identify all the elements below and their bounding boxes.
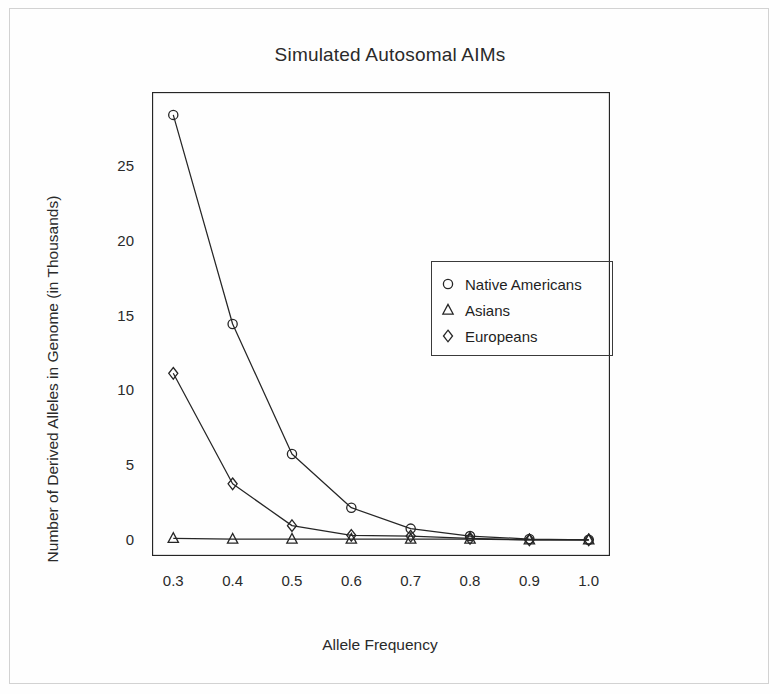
marker-triangle [168, 533, 178, 543]
y-tick-label: 5 [94, 456, 134, 473]
series-line [173, 373, 588, 540]
x-tick-label: 0.6 [328, 572, 374, 589]
legend-label: Asians [465, 302, 510, 319]
y-axis-label: Number of Derived Alleles in Genome (in … [44, 169, 62, 589]
y-tick-label: 20 [94, 232, 134, 249]
axis-ticks [152, 167, 589, 556]
legend-label: Europeans [465, 328, 538, 345]
y-tick-label: 15 [94, 307, 134, 324]
legend-label: Native Americans [465, 276, 582, 293]
triangle-marker-icon [440, 302, 456, 318]
marker-circle [169, 110, 178, 119]
marker-triangle [443, 304, 453, 314]
x-axis-label: Allele Frequency [170, 636, 590, 654]
x-tick-label: 0.5 [269, 572, 315, 589]
marker-diamond [443, 330, 452, 342]
x-tick-label: 1.0 [566, 572, 612, 589]
legend-item: Native Americans [440, 272, 582, 296]
x-tick-label: 0.8 [447, 572, 493, 589]
chart-title: Simulated Autosomal AIMs [0, 44, 780, 66]
diamond-marker-icon [440, 328, 456, 344]
marker-triangle [287, 533, 297, 543]
y-tick-label: 25 [94, 157, 134, 174]
marker-circle [443, 279, 452, 288]
marker-triangle [227, 533, 237, 543]
legend-item: Europeans [440, 324, 538, 348]
y-tick-label: 0 [94, 531, 134, 548]
x-tick-label: 0.4 [210, 572, 256, 589]
legend-item: Asians [440, 298, 510, 322]
x-tick-label: 0.9 [506, 572, 552, 589]
x-tick-label: 0.3 [150, 572, 196, 589]
legend: Native AmericansAsiansEuropeans [431, 261, 613, 356]
series-europeans [169, 367, 594, 545]
x-tick-label: 0.7 [388, 572, 434, 589]
y-tick-label: 10 [94, 381, 134, 398]
circle-marker-icon [440, 276, 456, 292]
chart-figure: Simulated Autosomal AIMs Number of Deriv… [0, 0, 780, 694]
